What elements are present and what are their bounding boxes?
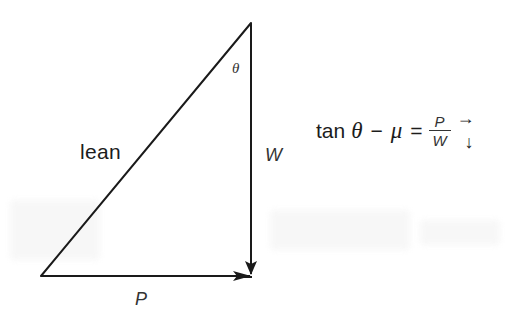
eq-minus: − xyxy=(371,119,383,143)
push-label: P xyxy=(135,290,147,308)
friction-equation: tan θ − μ = P W → ↓ xyxy=(316,106,475,156)
weight-label: W xyxy=(265,146,282,164)
direction-arrows: → ↓ xyxy=(457,115,475,151)
eq-theta: θ xyxy=(351,118,362,144)
theta-label: θ xyxy=(232,61,239,76)
eq-fraction: P W xyxy=(429,114,451,148)
eq-denominator: W xyxy=(433,131,447,148)
lean-line xyxy=(41,23,251,276)
eq-mu: μ xyxy=(391,118,403,144)
diagram-canvas: lean θ W P tan θ − μ = P W → ↓ xyxy=(0,0,530,315)
eq-equals: = xyxy=(410,119,422,143)
lean-label: lean xyxy=(80,141,121,162)
arrow-right-icon: → xyxy=(457,109,475,127)
eq-numerator: P xyxy=(433,114,447,130)
eq-tan: tan xyxy=(316,119,345,143)
arrow-down-icon: ↓ xyxy=(465,133,474,151)
